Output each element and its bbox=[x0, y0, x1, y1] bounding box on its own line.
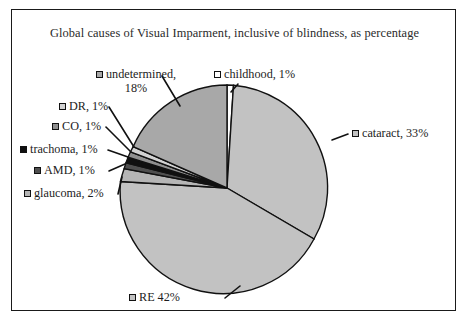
label-amd-text: AMD, 1% bbox=[44, 163, 95, 177]
label-cataract-text: cataract, 33% bbox=[362, 126, 428, 140]
chart-frame: Global causes of Visual Imparment, inclu… bbox=[11, 9, 456, 311]
label-undetermined-pct: 18% bbox=[96, 82, 176, 96]
pie-slices bbox=[120, 85, 328, 294]
leader-amd bbox=[109, 164, 125, 171]
label-glaucoma-text: glaucoma, 2% bbox=[34, 186, 104, 200]
label-co-text: CO, 1% bbox=[62, 119, 101, 133]
label-co: CO, 1% bbox=[52, 120, 101, 134]
label-re: RE 42% bbox=[129, 291, 180, 305]
swatch-trachoma bbox=[20, 146, 27, 153]
leader-dr bbox=[109, 107, 134, 147]
label-trachoma: trachoma, 1% bbox=[20, 143, 98, 157]
pie-chart bbox=[12, 10, 457, 312]
swatch-dr bbox=[59, 103, 66, 110]
label-glaucoma: glaucoma, 2% bbox=[24, 187, 104, 201]
label-amd: AMD, 1% bbox=[34, 164, 95, 178]
swatch-cataract bbox=[352, 130, 359, 137]
leader-cataract bbox=[332, 134, 348, 140]
leader-co bbox=[106, 127, 131, 152]
label-undetermined-text: undetermined, bbox=[106, 67, 176, 81]
label-cataract: cataract, 33% bbox=[352, 127, 428, 141]
label-undetermined: undetermined, 18% bbox=[96, 68, 176, 95]
label-childhood-text: childhood, 1% bbox=[224, 67, 295, 81]
swatch-undetermined bbox=[96, 71, 103, 78]
label-childhood: childhood, 1% bbox=[214, 68, 295, 82]
swatch-amd bbox=[34, 167, 41, 174]
swatch-glaucoma bbox=[24, 190, 31, 197]
label-dr: DR, 1% bbox=[59, 100, 108, 114]
swatch-childhood bbox=[214, 71, 221, 78]
leader-trachoma bbox=[108, 150, 128, 157]
label-re-text: RE 42% bbox=[139, 290, 180, 304]
swatch-co bbox=[52, 123, 59, 130]
label-trachoma-text: trachoma, 1% bbox=[30, 142, 98, 156]
swatch-re bbox=[129, 294, 136, 301]
label-dr-text: DR, 1% bbox=[69, 99, 108, 113]
